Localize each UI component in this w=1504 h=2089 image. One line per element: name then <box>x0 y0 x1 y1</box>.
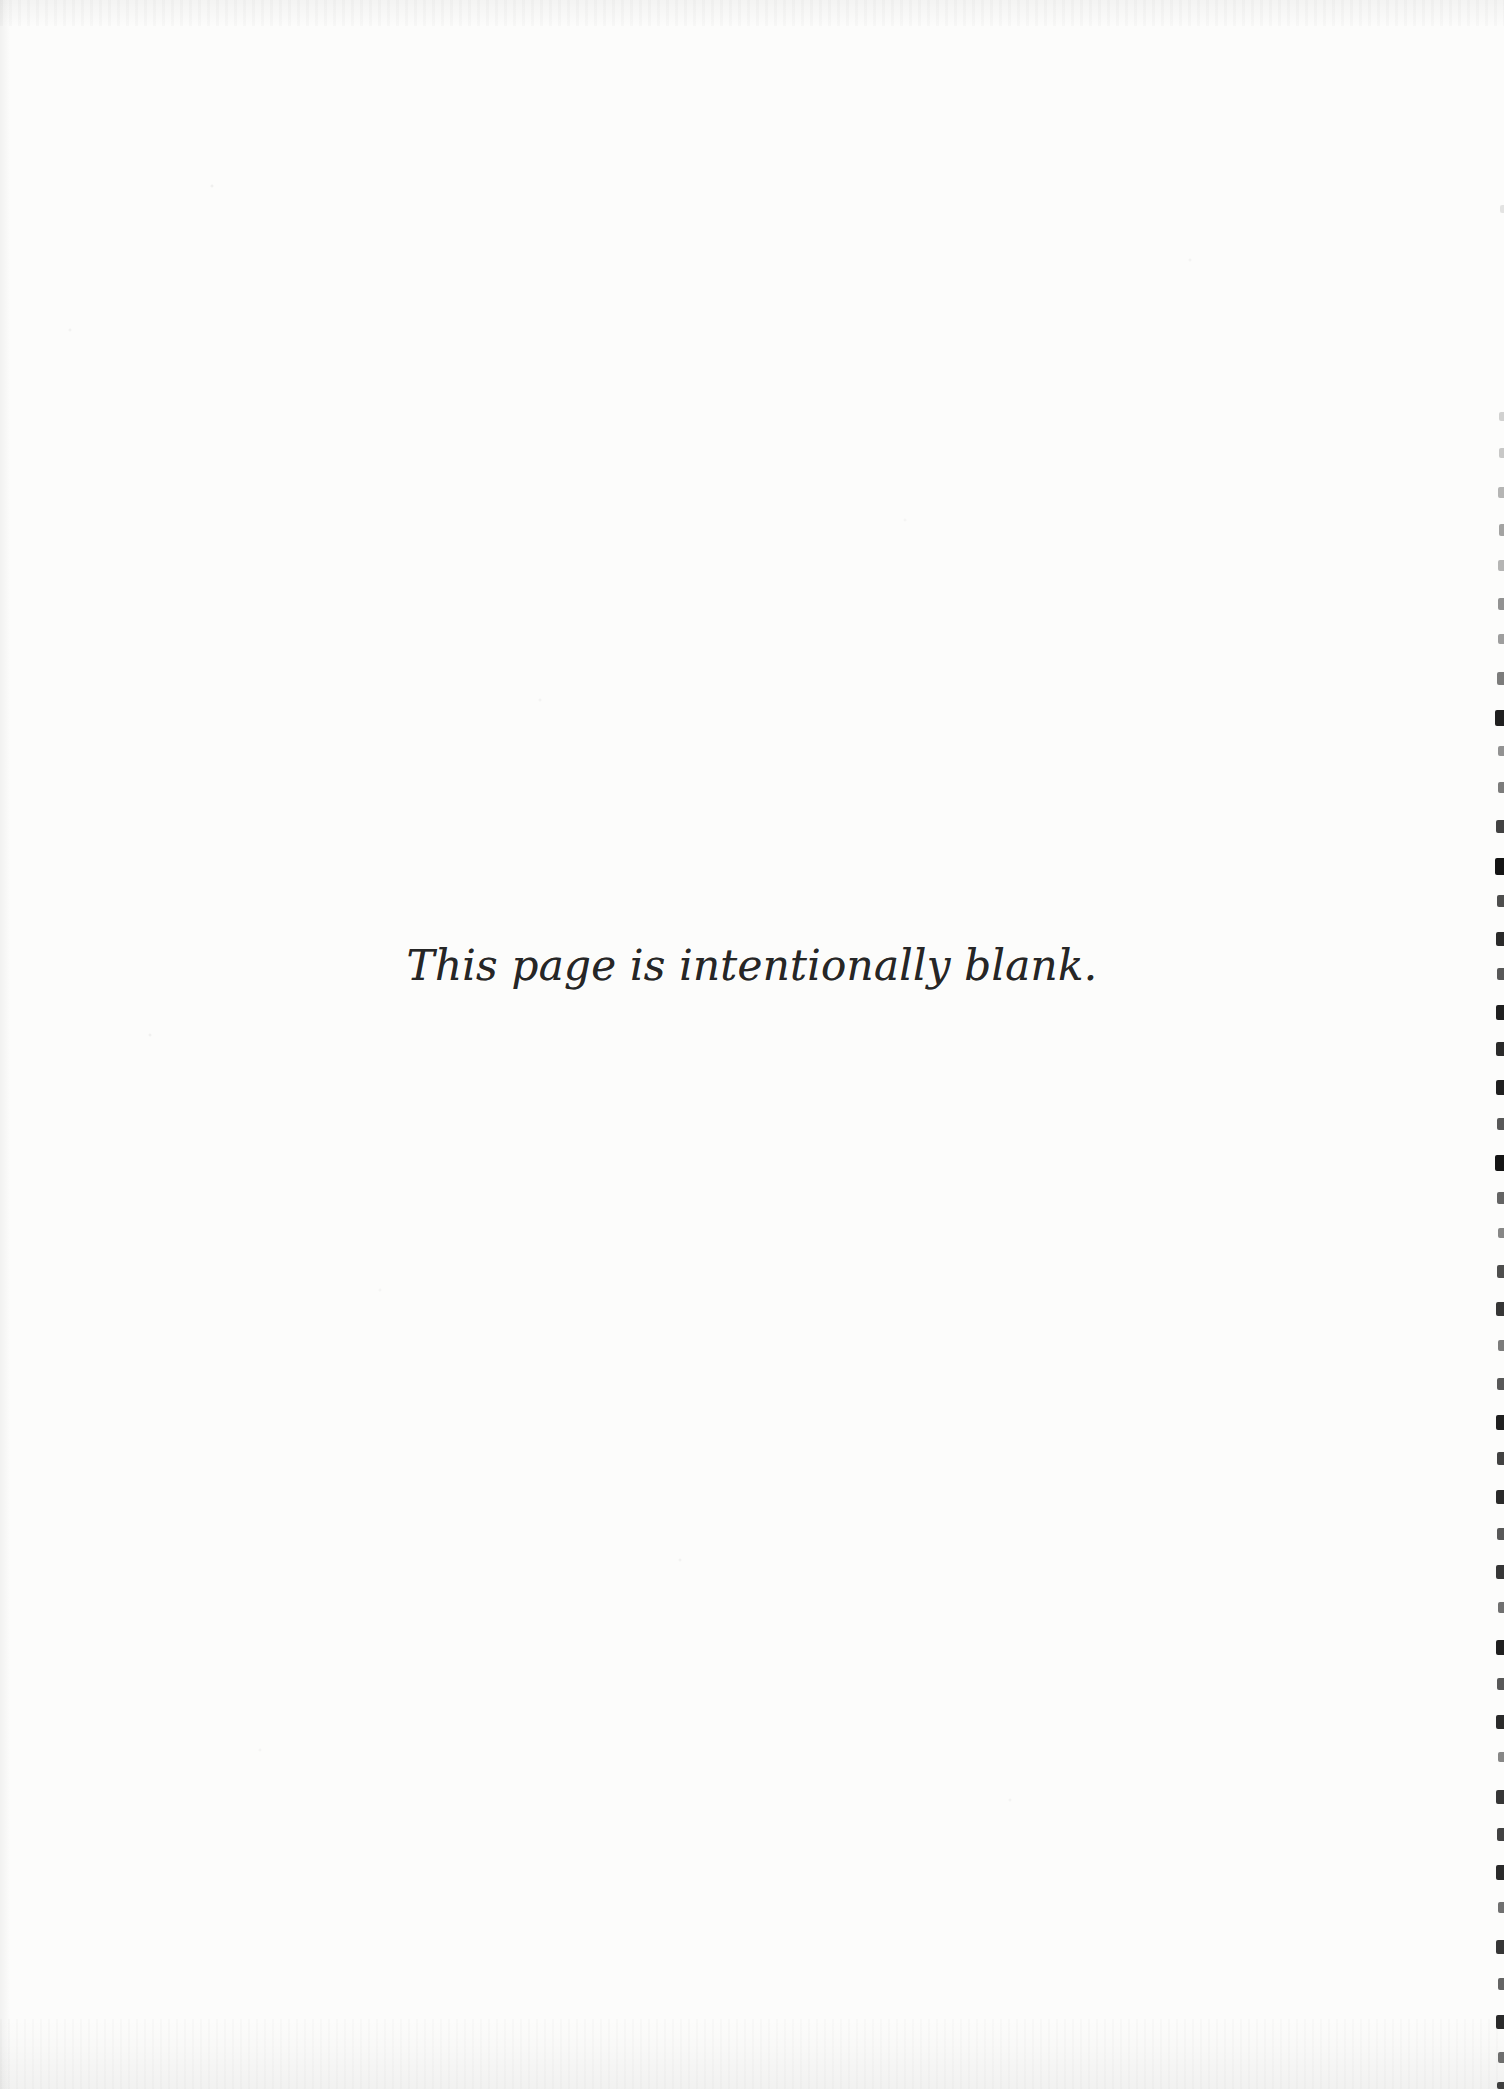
binding-mark <box>1497 1828 1504 1841</box>
binding-mark <box>1496 1865 1504 1880</box>
binding-mark <box>1499 412 1504 421</box>
binding-mark <box>1497 672 1504 685</box>
binding-mark <box>1497 1452 1504 1465</box>
scanned-blank-page: This page is intentionally blank. <box>0 0 1504 2089</box>
binding-mark <box>1498 1602 1504 1613</box>
binding-mark <box>1495 1155 1504 1171</box>
binding-mark <box>1498 1902 1504 1913</box>
binding-mark <box>1496 1005 1504 1020</box>
binding-mark <box>1499 524 1504 536</box>
binding-mark <box>1497 895 1504 907</box>
scan-texture-bottom-edge <box>0 2019 1504 2089</box>
page-edge-binding-marks <box>1488 0 1504 2089</box>
binding-mark <box>1496 820 1504 833</box>
binding-mark <box>1498 1228 1504 1238</box>
binding-mark <box>1496 1490 1504 1504</box>
binding-mark <box>1498 782 1504 793</box>
binding-mark <box>1496 932 1504 946</box>
binding-mark <box>1496 1940 1504 1954</box>
binding-mark <box>1496 1715 1504 1729</box>
binding-mark <box>1496 1302 1504 1316</box>
binding-mark <box>1498 487 1504 498</box>
binding-mark <box>1497 2082 1504 2089</box>
binding-mark <box>1497 1528 1504 1540</box>
binding-mark <box>1497 1378 1504 1390</box>
binding-mark <box>1496 2015 1504 2029</box>
binding-mark <box>1497 968 1504 980</box>
binding-mark <box>1498 560 1504 571</box>
binding-mark <box>1497 1192 1504 1204</box>
binding-mark <box>1500 205 1504 213</box>
binding-mark <box>1497 1265 1504 1278</box>
binding-mark <box>1498 746 1504 756</box>
binding-mark <box>1496 1415 1504 1430</box>
binding-mark <box>1498 634 1504 644</box>
binding-mark <box>1498 598 1504 610</box>
binding-mark <box>1495 858 1504 875</box>
binding-mark <box>1496 1790 1504 1804</box>
blank-page-notice: This page is intentionally blank. <box>0 938 1504 994</box>
binding-mark <box>1498 2052 1504 2063</box>
binding-mark <box>1498 1752 1504 1762</box>
scan-texture-left-edge <box>0 0 10 2089</box>
binding-mark <box>1496 1080 1504 1095</box>
binding-mark <box>1495 710 1504 726</box>
binding-mark <box>1497 1118 1504 1130</box>
binding-mark <box>1496 1640 1504 1655</box>
binding-mark <box>1498 1978 1504 1990</box>
binding-mark <box>1497 1678 1504 1690</box>
binding-mark <box>1496 1042 1504 1056</box>
scan-texture-top-edge <box>0 0 1504 26</box>
binding-mark <box>1496 1565 1504 1579</box>
binding-mark <box>1499 448 1504 458</box>
binding-mark <box>1498 1340 1504 1351</box>
